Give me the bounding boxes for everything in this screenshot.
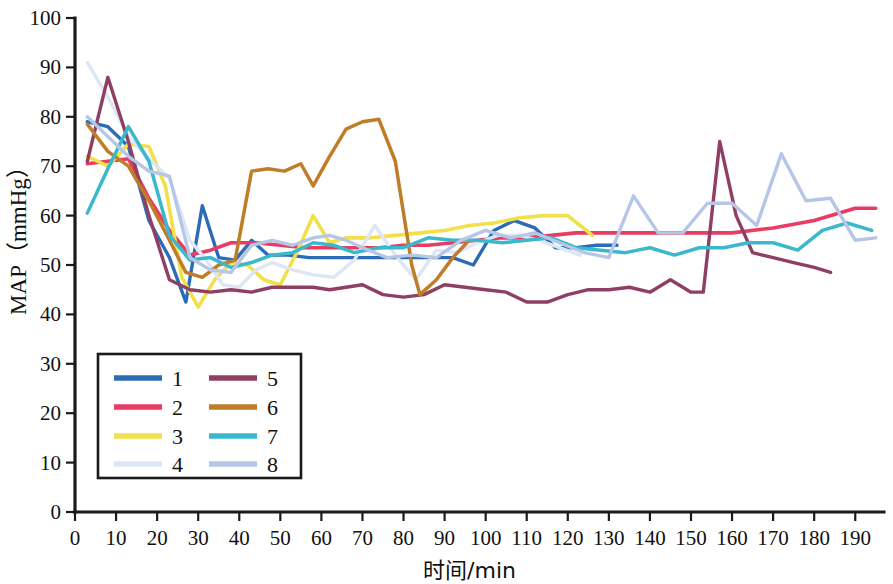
x-tick-label-20: 20 — [147, 526, 168, 550]
x-tick-label-120: 120 — [552, 526, 584, 550]
y-tick-label-90: 90 — [40, 55, 61, 79]
y-tick-label-50: 50 — [40, 253, 61, 277]
x-tick-label-100: 100 — [470, 526, 502, 550]
x-tick-label-40: 40 — [229, 526, 250, 550]
x-axis-title: 时间/min — [423, 558, 516, 583]
x-tick-label-10: 10 — [106, 526, 127, 550]
x-tick-label-90: 90 — [434, 526, 455, 550]
x-tick-label-0: 0 — [70, 526, 81, 550]
x-tick-label-170: 170 — [757, 526, 789, 550]
x-tick-label-150: 150 — [675, 526, 707, 550]
y-tick-label-20: 20 — [40, 401, 61, 425]
legend-label-7: 7 — [267, 424, 278, 449]
x-axis-tick-labels: 0102030405060708090100110120130140150160… — [70, 526, 871, 550]
legend-label-8: 8 — [267, 452, 278, 477]
y-tick-label-100: 100 — [30, 6, 62, 30]
legend-label-5: 5 — [267, 366, 278, 391]
y-axis-group: 0102030405060708090100 MAP（mmHg） — [6, 6, 75, 524]
x-tick-label-30: 30 — [188, 526, 209, 550]
y-tick-label-0: 0 — [51, 500, 62, 524]
y-tick-label-60: 60 — [40, 204, 61, 228]
x-tick-label-60: 60 — [311, 526, 332, 550]
legend-label-4: 4 — [172, 452, 183, 477]
x-tick-label-160: 160 — [716, 526, 748, 550]
line-chart: 0102030405060708090100 MAP（mmHg） 0102030… — [0, 0, 893, 584]
series-line-7 — [87, 127, 871, 268]
x-tick-label-190: 190 — [840, 526, 872, 550]
x-tick-label-50: 50 — [270, 526, 291, 550]
chart-container: 0102030405060708090100 MAP（mmHg） 0102030… — [0, 0, 893, 584]
legend-label-1: 1 — [172, 366, 183, 391]
y-tick-label-70: 70 — [40, 154, 61, 178]
series-line-5 — [87, 77, 830, 302]
x-tick-label-70: 70 — [352, 526, 373, 550]
chart-legend: 12345678 — [98, 354, 301, 478]
x-tick-label-80: 80 — [393, 526, 414, 550]
legend-label-3: 3 — [172, 424, 183, 449]
x-axis-group: 0102030405060708090100110120130140150160… — [70, 512, 884, 583]
y-tick-label-80: 80 — [40, 105, 61, 129]
y-tick-label-10: 10 — [40, 451, 61, 475]
y-tick-label-30: 30 — [40, 352, 61, 376]
legend-label-2: 2 — [172, 395, 183, 420]
x-tick-label-130: 130 — [593, 526, 625, 550]
x-tick-label-140: 140 — [634, 526, 666, 550]
y-tick-label-40: 40 — [40, 302, 61, 326]
x-tick-label-110: 110 — [511, 526, 542, 550]
x-tick-label-180: 180 — [798, 526, 830, 550]
y-axis-tick-labels: 0102030405060708090100 — [30, 6, 62, 524]
series-lines-group — [87, 62, 875, 307]
y-axis-title: MAP（mmHg） — [6, 155, 31, 315]
legend-label-6: 6 — [267, 395, 278, 420]
